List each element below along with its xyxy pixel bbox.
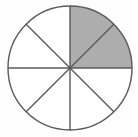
fraction-circle-figure: Circle divided into eight equal sectors … xyxy=(0,0,138,137)
pie-chart-svg xyxy=(0,0,138,137)
